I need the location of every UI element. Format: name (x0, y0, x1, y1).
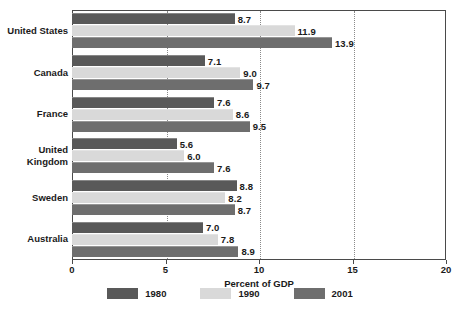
bar-1990 (72, 234, 218, 245)
bar-row: 7.6 (72, 97, 446, 108)
value-axis: Percent of GDP 05101520 (0, 260, 460, 290)
bar-group: 8.711.913.9 (72, 13, 446, 48)
category-axis-labels: United StatesCanadaFranceUnited KingdomS… (0, 10, 68, 260)
category-label: United States (0, 25, 68, 37)
bar-value-label: 7.1 (208, 55, 222, 66)
chart-legend: 198019902001 (0, 288, 460, 299)
bar-row: 8.8 (72, 180, 446, 191)
bar-value-label: 9.7 (256, 79, 270, 90)
legend-swatch-icon (107, 288, 138, 299)
bar-row: 6.0 (72, 150, 446, 161)
bar-1990 (72, 67, 240, 78)
bar-1980 (72, 222, 203, 233)
bar-value-label: 13.9 (335, 37, 354, 48)
bar-value-label: 9.0 (243, 67, 257, 78)
category-label: Sweden (0, 192, 68, 204)
bars-layer: 8.711.913.97.19.09.77.68.69.55.66.07.68.… (72, 10, 446, 260)
bar-value-label: 8.7 (238, 204, 252, 215)
bar-value-label: 8.7 (238, 13, 252, 24)
bar-value-label: 7.6 (217, 162, 231, 173)
bar-1990 (72, 109, 233, 120)
bar-group: 7.19.09.7 (72, 55, 446, 90)
bar-2001 (72, 121, 250, 132)
bar-value-label: 8.9 (241, 246, 255, 257)
bar-row: 9.5 (72, 121, 446, 132)
bar-1990 (72, 150, 184, 161)
bar-value-label: 9.5 (253, 121, 267, 132)
gdp-bar-chart: United StatesCanadaFranceUnited KingdomS… (0, 0, 460, 311)
tick-label-0: 0 (69, 264, 74, 275)
bar-group: 7.68.69.5 (72, 97, 446, 132)
bar-1980 (72, 97, 214, 108)
bar-row: 8.2 (72, 192, 446, 203)
category-label: United Kingdom (0, 144, 68, 167)
bar-row: 8.7 (72, 204, 446, 215)
bar-row: 7.8 (72, 234, 446, 245)
bar-value-label: 6.0 (187, 150, 201, 161)
bar-value-label: 5.6 (180, 138, 194, 149)
bar-value-label: 8.8 (240, 180, 254, 191)
bar-1980 (72, 13, 235, 24)
bar-group: 8.88.28.7 (72, 180, 446, 215)
legend-swatch-icon (294, 288, 325, 299)
bar-row: 8.7 (72, 13, 446, 24)
legend-item-2001[interactable]: 2001 (294, 288, 353, 299)
bar-row: 9.0 (72, 67, 446, 78)
bar-1980 (72, 180, 237, 191)
bar-value-label: 8.6 (236, 109, 250, 120)
bar-value-label: 8.2 (228, 192, 242, 203)
bar-1990 (72, 192, 225, 203)
bar-row: 8.9 (72, 246, 446, 257)
legend-label: 1990 (238, 288, 259, 299)
bar-value-label: 11.9 (298, 25, 316, 36)
bar-row: 8.6 (72, 109, 446, 120)
bar-1990 (72, 25, 295, 36)
bar-1980 (72, 138, 177, 149)
bar-row: 7.6 (72, 162, 446, 173)
legend-label: 2001 (332, 288, 353, 299)
category-label: France (0, 108, 68, 120)
legend-swatch-icon (200, 288, 231, 299)
tick-label-20: 20 (441, 264, 452, 275)
tick-label-5: 5 (163, 264, 168, 275)
bar-1980 (72, 55, 205, 66)
legend-item-1990[interactable]: 1990 (200, 288, 259, 299)
legend-label: 1980 (145, 288, 166, 299)
bar-value-label: 7.0 (206, 222, 220, 233)
bar-group: 7.07.88.9 (72, 222, 446, 257)
bar-2001 (72, 162, 214, 173)
category-label: Australia (0, 233, 68, 245)
bar-row: 13.9 (72, 37, 446, 48)
bar-group: 5.66.07.6 (72, 138, 446, 173)
bar-row: 9.7 (72, 79, 446, 90)
tick-label-15: 15 (347, 264, 358, 275)
tick-label-10: 10 (254, 264, 265, 275)
bar-value-label: 7.8 (221, 234, 235, 245)
bar-row: 7.1 (72, 55, 446, 66)
bar-2001 (72, 246, 238, 257)
legend-item-1980[interactable]: 1980 (107, 288, 166, 299)
bar-2001 (72, 37, 332, 48)
bar-row: 5.6 (72, 138, 446, 149)
bar-row: 7.0 (72, 222, 446, 233)
bar-2001 (72, 204, 235, 215)
bar-row: 11.9 (72, 25, 446, 36)
category-label: Canada (0, 67, 68, 79)
bar-2001 (72, 79, 253, 90)
bar-value-label: 7.6 (217, 97, 231, 108)
